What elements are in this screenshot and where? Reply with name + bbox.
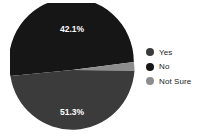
pie-slice-label-yes: 51.3% bbox=[60, 107, 85, 117]
legend-item-label: Not Sure bbox=[159, 77, 191, 86]
pie-chart-figure: 42.1% 51.3% Yes No Not Sure bbox=[0, 0, 204, 138]
legend-swatch-circle-icon bbox=[146, 77, 154, 85]
legend-item-yes[interactable]: Yes bbox=[146, 45, 204, 60]
pie-chart-svg: 42.1% 51.3% bbox=[10, 3, 136, 135]
legend-swatch-circle-icon bbox=[146, 63, 154, 71]
legend-item-label: Yes bbox=[159, 48, 172, 57]
legend-swatch-circle-icon bbox=[146, 48, 154, 56]
legend-item-not-sure[interactable]: Not Sure bbox=[146, 74, 204, 89]
legend-item-no[interactable]: No bbox=[146, 60, 204, 75]
pie-chart-plot-area: 42.1% 51.3% bbox=[10, 3, 136, 135]
pie-slice-yes[interactable] bbox=[10, 70, 134, 130]
legend-item-label: No bbox=[159, 62, 169, 71]
pie-slice-label-no: 42.1% bbox=[60, 24, 85, 34]
chart-legend: Yes No Not Sure bbox=[146, 45, 204, 89]
